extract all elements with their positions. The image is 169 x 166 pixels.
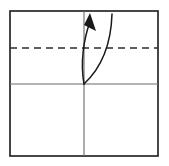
origami-diagram-container: Origami valley-fold step diagram Square … <box>0 0 169 166</box>
fold-diagram: Origami valley-fold step diagram Square … <box>0 0 169 166</box>
